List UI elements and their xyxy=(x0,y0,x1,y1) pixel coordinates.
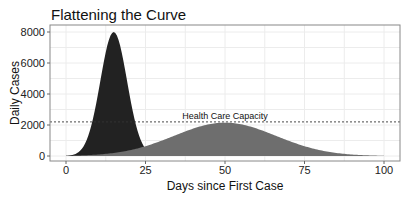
x-tick-label: 50 xyxy=(219,164,231,176)
x-tick-label: 100 xyxy=(375,164,393,176)
y-tick-label: 6000 xyxy=(21,57,45,69)
y-tick-label: 4000 xyxy=(21,88,45,100)
x-axis-ticks: 0255075100 xyxy=(63,161,393,176)
y-tick-label: 8000 xyxy=(21,26,45,38)
x-tick-label: 25 xyxy=(139,164,151,176)
chart: Flattening the Curve Health Care Capacit… xyxy=(0,0,409,197)
x-tick-label: 75 xyxy=(298,164,310,176)
x-axis-label: Days since First Case xyxy=(167,179,284,193)
y-axis-ticks: 02000400060008000 xyxy=(21,26,50,162)
x-tick-label: 0 xyxy=(63,164,69,176)
y-tick-label: 0 xyxy=(39,150,45,162)
y-tick-label: 2000 xyxy=(21,119,45,131)
y-axis-label: Daily Cases xyxy=(8,61,22,125)
capacity-label: Health Care Capacity xyxy=(182,111,268,121)
chart-title: Flattening the Curve xyxy=(51,6,186,23)
